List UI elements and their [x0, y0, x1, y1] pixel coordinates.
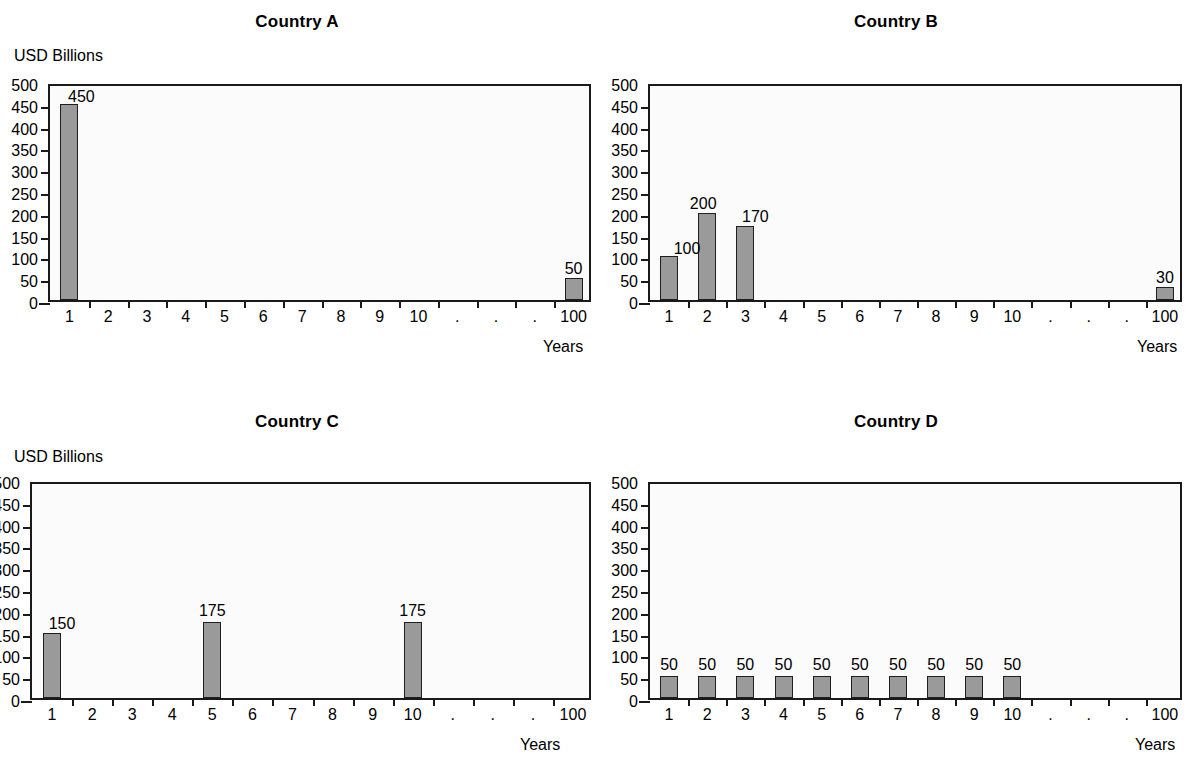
y-axis-label-country-c: USD Billions: [14, 448, 103, 466]
x-axis-tick: [917, 300, 919, 308]
x-axis-tick-label: .: [1086, 308, 1090, 326]
chart-panel-country-d: Country D USD Billions 50045040035030025…: [594, 400, 1188, 765]
y-axis-tick-label: 400: [0, 519, 20, 537]
x-axis-label-country-b: Years: [1137, 338, 1177, 356]
bar: [927, 676, 945, 698]
x-axis-tick-label: 1: [65, 308, 74, 326]
y-axis-tick-label: 450: [0, 99, 38, 117]
bar-value-label: 50: [1003, 656, 1021, 674]
bar: [965, 676, 983, 698]
x-axis-tick: [477, 300, 479, 308]
y-axis-tick-label: 0: [0, 295, 38, 313]
y-axis-tick: [23, 592, 32, 594]
x-axis-tick-label: 8: [328, 706, 337, 724]
y-axis-tick-label: 400: [0, 121, 38, 139]
bar: [889, 676, 907, 698]
bar-value-label: 50: [851, 656, 869, 674]
chart-panel-country-b: Country B USD Billions 50045040035030025…: [594, 0, 1188, 382]
y-axis-tick-label: 0: [594, 295, 638, 313]
y-axis-tick: [23, 614, 32, 616]
x-axis-tick-label: 3: [128, 706, 137, 724]
bar-value-label: 50: [775, 656, 793, 674]
x-axis-tick-label: 5: [817, 706, 826, 724]
bar: [660, 676, 678, 698]
bar: [775, 676, 793, 698]
y-axis-tick-label: 250: [594, 186, 638, 204]
x-axis-tick: [313, 698, 315, 706]
x-axis-tick-label: 10: [1003, 706, 1021, 724]
bar: [698, 676, 716, 698]
x-axis-tick-label: 10: [1003, 308, 1021, 326]
x-axis-tick: [841, 300, 843, 308]
y-axis-label-country-a: USD Billions: [14, 47, 103, 65]
x-axis-tick: [89, 300, 91, 308]
x-axis-tick: [879, 698, 881, 706]
x-axis-label-country-a: Years: [543, 338, 583, 356]
x-axis-tick: [726, 300, 728, 308]
y-axis-tick: [23, 636, 32, 638]
x-axis-tick: [803, 300, 805, 308]
chart-title-country-c: Country C: [0, 412, 594, 432]
x-axis-tick: [232, 698, 234, 706]
bar: [203, 622, 221, 698]
y-axis-tick: [641, 172, 650, 174]
bar: [736, 676, 754, 698]
x-axis-tick-label: 4: [779, 706, 788, 724]
x-axis-tick: [1108, 698, 1110, 706]
x-axis-tick-label: 100: [1152, 706, 1179, 724]
x-axis-tick-label: 8: [336, 308, 345, 326]
y-axis-tick-label: 350: [594, 540, 638, 558]
x-axis-tick: [1146, 698, 1148, 706]
y-axis-tick: [23, 657, 32, 659]
y-axis-tick: [41, 216, 50, 218]
bar-value-label: 450: [68, 88, 95, 106]
x-axis-tick: [515, 300, 517, 308]
y-axis-tick: [641, 238, 650, 240]
y-axis-tick: [641, 281, 650, 283]
bar-value-label: 50: [565, 260, 583, 278]
bar-value-label: 150: [49, 615, 76, 633]
x-axis-tick: [72, 698, 74, 706]
x-axis-tick: [152, 698, 154, 706]
y-axis-tick-label: 450: [0, 497, 20, 515]
y-axis-tick: [23, 527, 32, 529]
x-axis-tick-label: 1: [48, 706, 57, 724]
bar-value-label: 175: [399, 602, 426, 620]
bar: [698, 213, 716, 300]
x-axis-tick-label: 100: [560, 706, 587, 724]
y-axis-tick: [23, 570, 32, 572]
x-axis-tick-label: 2: [88, 706, 97, 724]
x-axis-tick: [322, 300, 324, 308]
x-axis-tick-label: 10: [404, 706, 422, 724]
x-axis-tick-label: 7: [893, 706, 902, 724]
x-axis-tick-label: 1: [665, 308, 674, 326]
y-axis-tick-label: 150: [0, 628, 20, 646]
y-axis-tick: [41, 259, 50, 261]
x-axis-tick: [993, 300, 995, 308]
x-axis-tick: [473, 698, 475, 706]
y-axis-tick-label: 400: [594, 519, 638, 537]
x-axis-tick: [112, 698, 114, 706]
y-axis-tick-label: 450: [594, 497, 638, 515]
y-axis-tick: [23, 679, 32, 681]
x-axis-tick: [272, 698, 274, 706]
x-axis-tick-label: 9: [970, 706, 979, 724]
y-axis-tick-label: 100: [0, 649, 20, 667]
x-axis-tick-label: 4: [779, 308, 788, 326]
y-axis-tick: [641, 216, 650, 218]
bar-value-label: 50: [698, 656, 716, 674]
bar-value-label: 50: [889, 656, 907, 674]
bar: [851, 676, 869, 698]
y-axis-tick: [641, 570, 650, 572]
bar-value-label: 175: [199, 602, 226, 620]
x-axis-tick-label: 3: [143, 308, 152, 326]
bar-value-label: 50: [736, 656, 754, 674]
x-axis-tick: [764, 698, 766, 706]
x-axis-tick-label: 7: [298, 308, 307, 326]
x-axis-tick-label: 6: [248, 706, 257, 724]
bar-value-label: 50: [813, 656, 831, 674]
x-axis-tick-label: 2: [703, 308, 712, 326]
y-axis-tick: [41, 150, 50, 152]
bar: [813, 676, 831, 698]
y-axis-tick: [23, 505, 32, 507]
